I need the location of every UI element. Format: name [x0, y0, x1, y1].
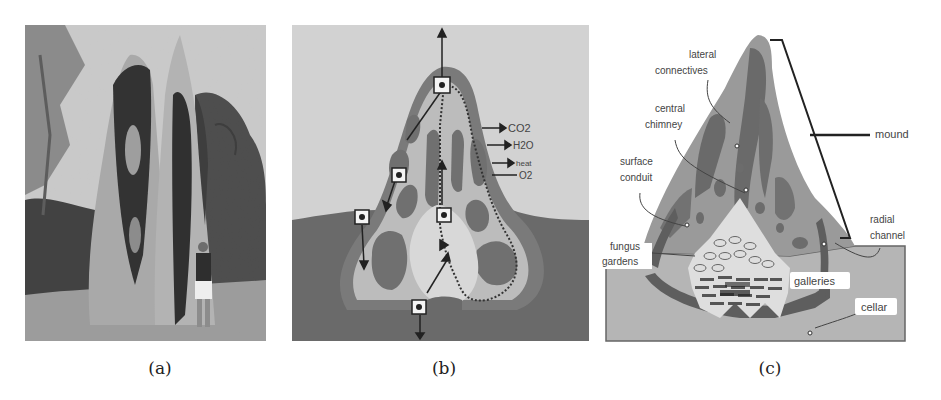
mound-structure-diagram: lateral connectives central chimney surf…: [600, 28, 915, 342]
label-co2: CO2: [508, 122, 531, 134]
label-radial-channel-1: radial: [870, 214, 894, 225]
label-o2: O2: [519, 170, 533, 181]
label-galleries: galleries: [794, 275, 835, 287]
label-surface-conduit-2: conduit: [620, 172, 652, 183]
label-surface-conduit-1: surface: [620, 156, 653, 167]
label-lateral-connectives-1: lateral: [689, 49, 716, 60]
label-fungus-gardens-1: fungus: [610, 241, 640, 252]
label-heat: heat: [516, 159, 532, 168]
label-cellar: cellar: [861, 301, 888, 313]
caption-b: (b): [414, 358, 474, 378]
label-radial-channel-2: channel: [870, 230, 905, 241]
label-lateral-connectives-2: connectives: [655, 65, 708, 76]
air-circulation-diagram: CO2 H2O heat O2: [292, 25, 589, 341]
label-mound: mound: [875, 128, 909, 140]
label-h2o: H2O: [513, 140, 534, 151]
caption-a: (a): [130, 358, 190, 378]
label-central-chimney-1: central: [655, 103, 685, 114]
caption-c: (c): [740, 358, 800, 378]
label-central-chimney-2: chimney: [645, 119, 682, 130]
termite-mound-photo: [25, 25, 266, 341]
label-fungus-gardens-2: gardens: [602, 256, 638, 267]
